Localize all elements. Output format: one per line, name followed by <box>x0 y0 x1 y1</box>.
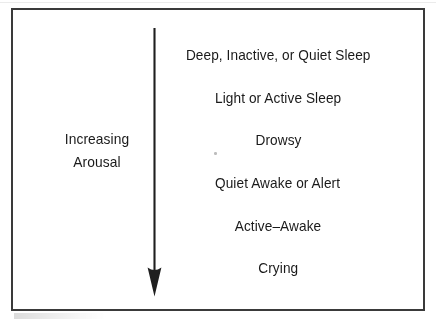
state-label: Active–Awake <box>235 218 321 234</box>
state-item: Active–Awake <box>168 204 388 247</box>
state-label: Light or Active Sleep <box>215 90 341 106</box>
state-item: Quiet Awake or Alert <box>168 162 388 205</box>
state-label: Quiet Awake or Alert <box>215 175 340 191</box>
axis-label: Increasing Arousal <box>40 128 154 174</box>
state-item: Deep, Inactive, or Quiet Sleep <box>168 34 388 77</box>
state-item: Light or Active Sleep <box>168 77 388 120</box>
axis-label-line-1: Increasing <box>40 128 154 151</box>
scan-speck-artifact <box>214 152 217 155</box>
figure-canvas: Increasing Arousal Deep, Inactive, or Qu… <box>0 0 436 323</box>
state-item: Crying <box>168 247 388 290</box>
axis-label-line-2: Arousal <box>40 151 154 174</box>
state-label: Drowsy <box>255 132 301 148</box>
scan-smudge-artifact <box>14 313 106 319</box>
state-label: Deep, Inactive, or Quiet Sleep <box>186 47 371 63</box>
scan-edge-artifact <box>0 2 436 3</box>
state-item: Drowsy <box>168 119 388 162</box>
state-label: Crying <box>258 260 298 276</box>
state-list: Deep, Inactive, or Quiet Sleep Light or … <box>168 34 388 290</box>
